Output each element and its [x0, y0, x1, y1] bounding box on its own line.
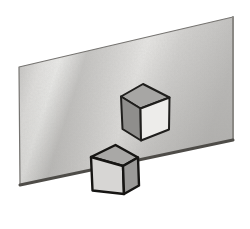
plane-and-cubes-illustration	[0, 0, 250, 229]
figure-svg	[0, 0, 250, 229]
